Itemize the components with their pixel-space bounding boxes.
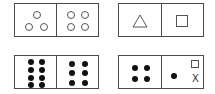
black-dot-icon (82, 61, 88, 67)
hollow-circle-icon (40, 23, 48, 31)
black-dot-icon (28, 82, 34, 88)
black-dot-icon (69, 70, 75, 76)
black-dot-icon (39, 59, 45, 65)
figure-top-right (118, 3, 204, 37)
figure-bottom-left (14, 55, 99, 89)
black-dot-icon (39, 67, 45, 73)
triangle-icon (132, 14, 148, 28)
black-dot-icon (28, 75, 34, 81)
unknown-label: X (192, 74, 199, 84)
hollow-circle-icon (67, 11, 75, 19)
hollow-circle-icon (81, 23, 89, 31)
black-dot-icon (171, 73, 177, 79)
black-dot-icon (132, 76, 138, 82)
black-dot-icon (144, 65, 150, 71)
hollow-circle-icon (33, 11, 41, 19)
black-dot-icon (69, 80, 75, 86)
black-dot-icon (39, 75, 45, 81)
black-dot-icon (132, 65, 138, 71)
panel-divider (56, 56, 57, 88)
small-square-icon (191, 60, 199, 68)
black-dot-icon (69, 61, 75, 67)
panel-divider (161, 4, 162, 36)
hollow-circle-icon (67, 23, 75, 31)
figure-bottom-right: X (118, 55, 204, 89)
hollow-circle-icon (25, 23, 33, 31)
square-icon (176, 15, 188, 27)
black-dot-icon (82, 80, 88, 86)
panel-divider (56, 4, 57, 36)
black-dot-icon (144, 76, 150, 82)
black-dot-icon (39, 82, 45, 88)
panel-divider (161, 56, 162, 88)
black-dot-icon (28, 59, 34, 65)
hollow-circle-icon (81, 11, 89, 19)
figure-top-left (14, 3, 99, 37)
black-dot-icon (28, 67, 34, 73)
black-dot-icon (82, 70, 88, 76)
